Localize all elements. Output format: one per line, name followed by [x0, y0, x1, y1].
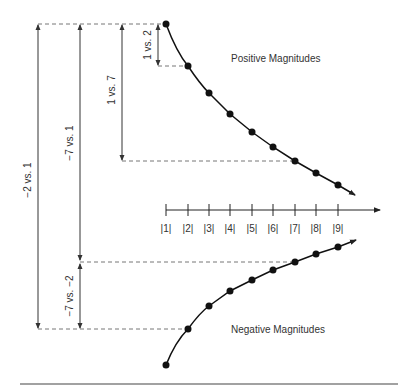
svg-text:|4|: |4|	[225, 223, 236, 234]
diagram-canvas: 1 vs. 2 1 vs. 7 −7 vs. 1 −2 vs. 1 −7 vs.…	[0, 0, 398, 388]
svg-text:|6|: |6|	[268, 223, 279, 234]
svg-text:|9|: |9|	[333, 223, 344, 234]
magnitude-diagram: 1 vs. 2 1 vs. 7 −7 vs. 1 −2 vs. 1 −7 vs.…	[0, 0, 398, 388]
axis-tick-labels: |1| |2| |3| |4| |5| |6| |7| |8| |9|	[161, 223, 344, 234]
positive-magnitudes-label: Positive Magnitudes	[231, 53, 321, 64]
positive-points	[163, 21, 342, 189]
negative-curve	[166, 240, 356, 365]
positive-curve	[166, 24, 355, 195]
svg-text:|7|: |7|	[290, 223, 301, 234]
dashed-guides	[38, 24, 293, 329]
label-minus7-vs-minus2: −7 vs. −2	[64, 275, 75, 317]
svg-text:|1|: |1|	[161, 223, 172, 234]
svg-text:|2|: |2|	[183, 223, 194, 234]
label-1-vs-2: 1 vs. 2	[142, 30, 153, 60]
label-minus7-vs-1: −7 vs. 1	[64, 125, 75, 161]
svg-text:|3|: |3|	[204, 223, 215, 234]
svg-text:|5|: |5|	[247, 223, 258, 234]
negative-magnitudes-label: Negative Magnitudes	[231, 324, 325, 335]
label-minus2-vs-1: −2 vs. 1	[22, 162, 33, 198]
svg-text:|8|: |8|	[311, 223, 322, 234]
comparison-arrows	[38, 25, 158, 328]
label-1-vs-7: 1 vs. 7	[106, 75, 117, 105]
